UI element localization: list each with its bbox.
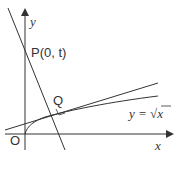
origin-label: O — [10, 133, 20, 148]
x-axis-label: x — [154, 138, 161, 153]
point-p-label: P(0, t) — [31, 45, 66, 60]
curve-label: y = √x — [127, 106, 163, 121]
figure: y x O P(0, t) Q y = √x — [0, 0, 176, 169]
normal-line — [8, 8, 65, 150]
point-q-label: Q — [53, 93, 63, 108]
y-axis-label: y — [28, 14, 36, 29]
